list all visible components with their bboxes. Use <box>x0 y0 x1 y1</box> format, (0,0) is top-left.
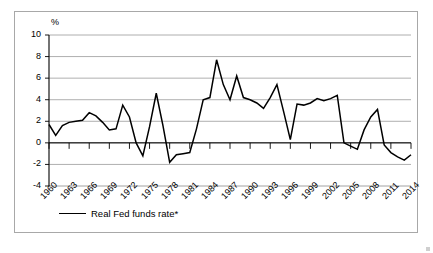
y-axis-label-4: 4 <box>19 94 41 104</box>
corner-artifact <box>426 247 430 251</box>
gridlines-group <box>49 35 411 186</box>
y-axis-label--4: -4 <box>19 180 41 190</box>
chart-legend: Real Fed funds rate* <box>59 208 178 219</box>
legend-line-swatch <box>59 213 86 214</box>
y-axis-label--2: -2 <box>19 158 41 168</box>
legend-label-real-fed-funds-rate: Real Fed funds rate* <box>91 208 178 219</box>
y-axis-label-6: 6 <box>19 72 41 82</box>
y-axis-label-0: 0 <box>19 137 41 147</box>
x-axis-ticks-group <box>45 35 411 186</box>
y-axis-label-10: 10 <box>19 29 41 39</box>
chart-container: % 1086420-2-4 19601963196619691972197519… <box>14 11 418 233</box>
y-axis-label-2: 2 <box>19 115 41 125</box>
y-axis-label-8: 8 <box>19 51 41 61</box>
line-chart-plot <box>15 12 417 232</box>
